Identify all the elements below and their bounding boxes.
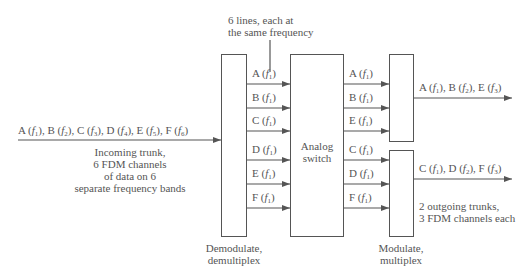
- outgoing-trunk-2-label: C (f1), D (f2), F (f3): [419, 162, 501, 178]
- incoming-signals-label: A (f1), B (f2), C (f3), D (f4), E (f5), …: [18, 124, 188, 140]
- outgoing-note: 2 outgoing trunks, 3 FDM channels each: [419, 200, 515, 224]
- demux-output-f: F (f1): [252, 191, 275, 207]
- switch-output-e: E (f1): [349, 114, 372, 130]
- demux-output-c: C (f1): [252, 114, 276, 130]
- switch-output-d: D (f1): [349, 167, 374, 183]
- analog-switch-label: Analog switch: [290, 140, 344, 164]
- mux-top-box: [389, 54, 414, 142]
- outgoing-trunk-1-label: A (f1), B (f2), E (f3): [419, 81, 501, 97]
- demux-output-a: A (f1): [252, 67, 276, 83]
- switch-output-b: B (f1): [349, 91, 373, 107]
- demux-box: [221, 54, 247, 237]
- mux-bottom-box: [389, 150, 414, 237]
- incoming-caption: Incoming trunk, 6 FDM channels of data o…: [55, 146, 205, 194]
- demux-output-d: D (f1): [252, 143, 277, 159]
- mux-caption: Modulate, multiplex: [361, 242, 441, 266]
- demux-output-b: B (f1): [252, 91, 276, 107]
- switch-output-a: A (f1): [349, 67, 373, 83]
- switch-output-f: F (f1): [349, 191, 372, 207]
- top-note: 6 lines, each at the same frequency: [228, 14, 314, 38]
- demux-caption: Demodulate, demultiplex: [194, 242, 274, 266]
- switch-output-c: C (f1): [349, 143, 373, 159]
- demux-output-e: E (f1): [252, 167, 275, 183]
